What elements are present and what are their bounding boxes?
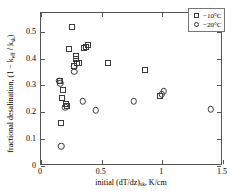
- plot-area: [40, 12, 222, 165]
- data-points-layer: [41, 13, 221, 164]
- y-axis-tick-label: 0.4: [26, 53, 36, 62]
- x-axis-title-units: , K/cm: [145, 178, 167, 187]
- y-axis-title-mid: / k: [6, 42, 15, 52]
- x-axis-tick-label: 1.5: [217, 167, 227, 176]
- x-axis-tick: [41, 160, 42, 164]
- y-axis-tick: [41, 85, 45, 86]
- y-axis-tick: [41, 59, 45, 60]
- y-axis-tick: [41, 32, 45, 33]
- x-axis-tick-label: 1: [159, 167, 163, 176]
- data-point-square: [73, 53, 79, 59]
- data-point-square: [59, 95, 65, 101]
- legend-square-marker-icon: [191, 13, 202, 18]
- data-point-circle: [71, 68, 78, 75]
- data-point-circle: [131, 98, 138, 105]
- x-axis-tick-top: [162, 13, 163, 17]
- scatter-chart-figure: 00.511.500.10.20.30.40.5 initial (dT/dz)…: [0, 0, 241, 195]
- x-axis-title: initial (dT/dz)sk, K/cm: [40, 178, 222, 189]
- y-axis-tick-right: [217, 85, 221, 86]
- y-axis-title-main: fractional desalination, (1 − k: [6, 58, 15, 152]
- y-axis-tick: [41, 112, 45, 113]
- y-axis-tick-right: [217, 139, 221, 140]
- y-axis-tick: [41, 139, 45, 140]
- x-axis-title-main: initial (dT/dz): [95, 178, 140, 187]
- data-point-square: [66, 46, 72, 52]
- x-axis-tick: [223, 160, 224, 164]
- data-point-square: [85, 42, 91, 48]
- data-point-circle: [62, 104, 69, 111]
- x-axis-tick-label: 0.5: [96, 167, 106, 176]
- y-axis-tick-label: 0.5: [26, 26, 36, 35]
- y-axis-title: fractional desalination, (1 − keff / ksk…: [6, 19, 17, 169]
- data-point-square: [60, 87, 66, 93]
- y-axis-tick-label: 0: [32, 161, 36, 170]
- x-axis-tick-top: [41, 13, 42, 17]
- y-axis-tick-right: [217, 112, 221, 113]
- data-point-circle: [208, 106, 215, 113]
- x-axis-tick-top: [102, 13, 103, 17]
- data-point-circle: [58, 143, 65, 150]
- chart-legend: −10°C −20°C: [188, 8, 225, 32]
- data-point-circle: [93, 107, 100, 114]
- x-axis-tick: [162, 160, 163, 164]
- y-axis-title-subscript-sk: sk: [10, 37, 16, 42]
- legend-label-minus20: −20°C: [202, 21, 221, 29]
- data-point-circle: [57, 80, 64, 87]
- y-axis-tick-right: [217, 59, 221, 60]
- legend-entry-minus20: −20°C: [191, 20, 221, 29]
- legend-entry-minus10: −10°C: [191, 11, 221, 20]
- y-axis-tick-label: 0.3: [26, 80, 36, 89]
- y-axis-tick-label: 0.2: [26, 107, 36, 116]
- data-point-square: [105, 60, 111, 66]
- data-point-circle: [80, 98, 87, 105]
- data-point-square: [58, 120, 64, 126]
- y-axis-title-close: ): [6, 35, 15, 38]
- data-point-square: [142, 67, 148, 73]
- x-axis-tick: [102, 160, 103, 164]
- x-axis-tick-label: 0: [38, 167, 42, 176]
- y-axis-tick-label: 0.1: [26, 134, 36, 143]
- data-point-circle: [161, 88, 168, 95]
- y-axis-title-subscript-eff: eff: [10, 52, 16, 58]
- data-point-square: [69, 24, 75, 30]
- legend-circle-marker-icon: [191, 22, 202, 28]
- legend-label-minus10: −10°C: [202, 12, 221, 20]
